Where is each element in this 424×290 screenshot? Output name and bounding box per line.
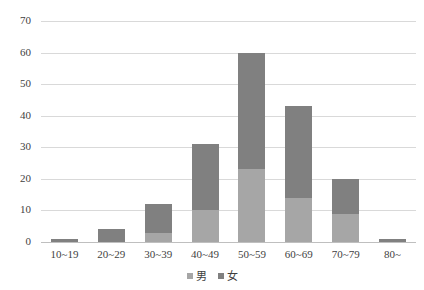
gridline-0 <box>41 242 416 243</box>
chart-legend: 男女 <box>0 268 424 284</box>
plot-area <box>41 21 416 242</box>
legend-item[interactable]: 男 <box>187 270 207 282</box>
x-tick-label: 80~ <box>369 248 416 260</box>
bar-group[interactable] <box>145 21 172 242</box>
y-tick-label: 0 <box>26 236 32 247</box>
bar-segment[interactable] <box>192 144 219 210</box>
x-axis: 10~1920~2930~3940~4950~5960~6970~7980~ <box>41 248 416 264</box>
y-tick-label: 20 <box>20 173 31 184</box>
bar-segment[interactable] <box>145 233 172 242</box>
y-tick-label: 30 <box>20 141 31 152</box>
bar-group[interactable] <box>238 21 265 242</box>
x-tick-label: 10~19 <box>41 248 88 260</box>
bar-segment[interactable] <box>238 169 265 242</box>
bar-group[interactable] <box>98 21 125 242</box>
bar-group[interactable] <box>51 21 78 242</box>
bar-segment[interactable] <box>332 179 359 214</box>
x-tick-label: 20~29 <box>88 248 135 260</box>
bar-group[interactable] <box>379 21 406 242</box>
bar-segment[interactable] <box>192 210 219 242</box>
bar-group[interactable] <box>332 21 359 242</box>
bar-group[interactable] <box>192 21 219 242</box>
x-tick-label: 70~79 <box>322 248 369 260</box>
legend-swatch-icon <box>218 273 224 279</box>
bar-segment[interactable] <box>332 214 359 242</box>
y-axis: 010203040506070 <box>0 0 38 263</box>
y-tick-label: 70 <box>20 15 31 26</box>
legend-label: 男 <box>196 270 207 282</box>
x-tick-label: 40~49 <box>182 248 229 260</box>
legend-label: 女 <box>227 270 238 282</box>
bar-segment[interactable] <box>51 239 78 242</box>
legend-swatch-icon <box>187 273 193 279</box>
bar-segment[interactable] <box>98 229 125 242</box>
y-tick-label: 50 <box>20 78 31 89</box>
bar-segment[interactable] <box>238 53 265 170</box>
bar-group[interactable] <box>285 21 312 242</box>
bar-segment[interactable] <box>379 239 406 242</box>
x-tick-label: 30~39 <box>135 248 182 260</box>
age-gender-stacked-bar-chart: 010203040506070 10~1920~2930~3940~4950~5… <box>0 0 424 290</box>
y-tick-label: 60 <box>20 47 31 58</box>
bar-segment[interactable] <box>285 198 312 242</box>
bar-segment[interactable] <box>285 106 312 198</box>
x-tick-label: 50~59 <box>229 248 276 260</box>
y-tick-label: 10 <box>20 204 31 215</box>
bars-layer <box>41 21 416 242</box>
bar-segment[interactable] <box>145 204 172 232</box>
x-tick-label: 60~69 <box>275 248 322 260</box>
legend-item[interactable]: 女 <box>218 270 238 282</box>
y-tick-label: 40 <box>20 110 31 121</box>
